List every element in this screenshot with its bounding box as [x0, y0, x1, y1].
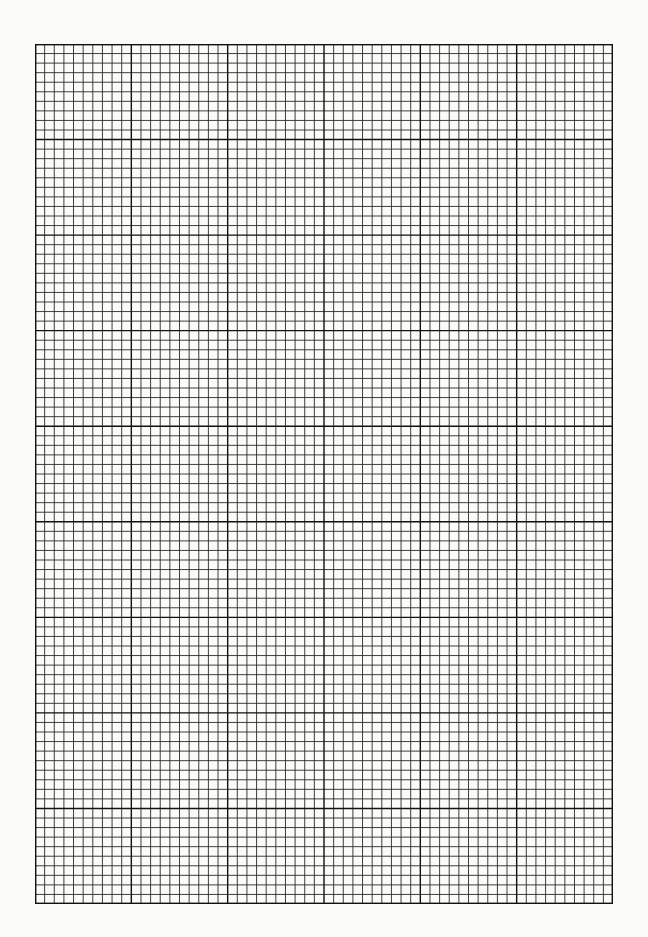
grid-lines	[35, 44, 613, 904]
graph-paper-grid	[35, 44, 613, 904]
